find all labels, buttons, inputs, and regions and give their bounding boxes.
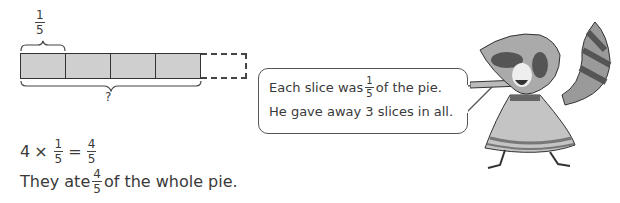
equals-sign: = (68, 142, 81, 161)
bottom-question-label: ? (105, 90, 111, 104)
numerator: 1 (35, 9, 45, 23)
numerator: 1 (365, 76, 373, 88)
numerator: 1 (54, 138, 64, 152)
bar-cell (156, 54, 200, 78)
denominator: 5 (88, 152, 96, 165)
conclusion-sentence: They ate 4 5 of the whole pie. (20, 168, 238, 195)
speech-bubble: Each slice was 1 5 of the pie. He gave a… (258, 68, 468, 134)
bar-cell (66, 54, 111, 78)
bar-cell (111, 54, 156, 78)
bar-cell (21, 54, 66, 78)
numerator: 4 (92, 168, 102, 182)
denominator: 5 (55, 152, 63, 165)
denominator: 5 (366, 88, 372, 99)
top-brace-icon (20, 40, 66, 52)
denominator: 5 (36, 23, 44, 36)
missing-part-box (201, 53, 247, 79)
fraction: 1 5 (54, 138, 64, 165)
text: of the whole pie. (104, 172, 238, 191)
bubble-line-1: Each slice was 1 5 of the pie. (269, 75, 457, 99)
top-fraction-label: 1 5 (35, 9, 45, 36)
bubble-line-2: He gave away 3 slices in all. (269, 99, 457, 123)
fraction: 4 5 (92, 168, 102, 195)
equation: 4 × 1 5 = 4 5 (20, 138, 98, 165)
denominator: 5 (93, 182, 101, 195)
result-fraction: 4 5 (87, 138, 97, 165)
text: They ate (20, 172, 90, 191)
factor: 4 (20, 142, 30, 161)
fraction: 1 5 (365, 76, 373, 99)
numerator: 4 (87, 138, 97, 152)
text: of the pie. (376, 80, 442, 95)
bar-model (20, 53, 201, 79)
raccoon-illustration-icon (470, 10, 620, 170)
text: Each slice was (269, 80, 363, 95)
times-sign: × (34, 142, 47, 161)
